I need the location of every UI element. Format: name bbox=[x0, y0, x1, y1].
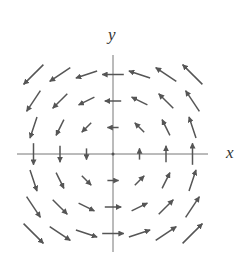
vector-arrow bbox=[82, 176, 91, 185]
vector-arrow bbox=[162, 120, 170, 136]
vector-arrow bbox=[183, 65, 203, 85]
vector-arrow bbox=[189, 117, 196, 138]
vector-arrow bbox=[27, 91, 41, 112]
vector-arrow bbox=[129, 71, 150, 78]
vector-arrow bbox=[183, 224, 203, 244]
vector-arrow bbox=[132, 203, 148, 211]
vector-arrow bbox=[189, 170, 196, 191]
vector-arrow bbox=[162, 173, 170, 189]
vector-arrow bbox=[156, 227, 177, 241]
vector-arrow bbox=[24, 224, 44, 244]
vector-arrow bbox=[50, 227, 71, 241]
vector-arrow bbox=[82, 123, 91, 132]
vector-arrow bbox=[76, 230, 97, 237]
vector-arrow bbox=[135, 176, 144, 185]
vector-arrow bbox=[53, 94, 68, 109]
vector-arrow bbox=[30, 117, 37, 138]
vector-arrow bbox=[186, 197, 200, 218]
vector-arrow bbox=[79, 97, 95, 105]
y-axis-label: y bbox=[108, 26, 116, 43]
vector-arrow bbox=[156, 68, 177, 82]
x-axis-label: x bbox=[226, 144, 234, 161]
vector-arrow bbox=[79, 203, 95, 211]
vector-arrow bbox=[76, 71, 97, 78]
vector-arrow bbox=[112, 153, 115, 156]
vector-arrow bbox=[27, 197, 41, 218]
vector-arrow bbox=[56, 120, 64, 136]
vector-arrow bbox=[129, 230, 150, 237]
vector-arrow bbox=[186, 91, 200, 112]
vector-arrow bbox=[30, 170, 37, 191]
vector-arrow bbox=[135, 123, 144, 132]
vector-field-plot bbox=[0, 0, 241, 262]
vector-arrow bbox=[24, 65, 44, 85]
vector-arrow bbox=[159, 94, 174, 109]
vector-arrow bbox=[132, 97, 148, 105]
vector-arrow bbox=[50, 68, 71, 82]
vector-arrow bbox=[56, 173, 64, 189]
vector-arrow bbox=[53, 200, 68, 215]
vector-arrow bbox=[159, 200, 174, 215]
